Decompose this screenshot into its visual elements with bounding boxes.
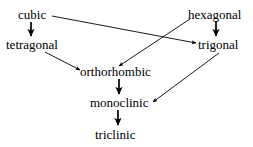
node-label-hexagonal: hexagonal bbox=[188, 8, 241, 21]
node-label-triclinic: triclinic bbox=[95, 128, 135, 141]
edge-hexagonal-to-orthorhombic bbox=[119, 19, 190, 66]
node-label-orthorhombic: orthorhombic bbox=[80, 65, 151, 78]
crystal-system-hierarchy-diagram: cubic hexagonal tetragonal trigonal orth… bbox=[0, 0, 253, 147]
edge-trigonal-to-monoclinic bbox=[153, 53, 219, 102]
node-label-trigonal: trigonal bbox=[198, 38, 238, 51]
node-label-tetragonal: tetragonal bbox=[6, 38, 58, 51]
edge-tetragonal-to-orthorhombic bbox=[45, 52, 80, 70]
node-label-cubic: cubic bbox=[18, 8, 46, 21]
node-label-monoclinic: monoclinic bbox=[90, 96, 149, 109]
